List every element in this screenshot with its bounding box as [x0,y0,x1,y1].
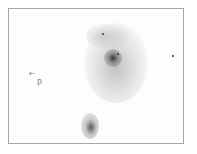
star-1 [102,33,104,35]
main-galaxy-core [104,49,122,67]
star-3 [172,55,174,57]
companion-galaxy [81,113,99,139]
star-2 [117,53,119,55]
direction-arrow: ← [29,70,36,78]
image-frame: ← P [8,8,184,144]
p-label: P [37,80,42,88]
galaxy-arm-upper [86,23,130,49]
